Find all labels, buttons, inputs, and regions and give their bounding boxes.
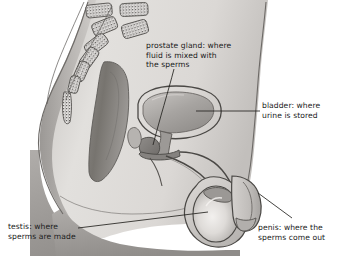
label-testis: testis: where sperms are made bbox=[8, 222, 76, 241]
leader-line-penis bbox=[258, 193, 292, 218]
penis bbox=[232, 176, 262, 231]
vertebra bbox=[85, 3, 112, 19]
label-prostate-gland: prostate gland: where fluid is mixed wit… bbox=[146, 41, 231, 70]
vertebra bbox=[120, 2, 149, 16]
seminal-vesicle bbox=[128, 127, 142, 148]
anatomical-illustration bbox=[0, 0, 339, 256]
label-bladder: bladder: where urine is stored bbox=[262, 101, 320, 120]
label-penis: penis: where the sperms come out bbox=[258, 223, 325, 242]
anatomy-figure: prostate gland: where fluid is mixed wit… bbox=[0, 0, 339, 256]
